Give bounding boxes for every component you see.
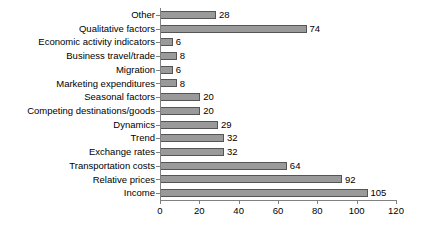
bar: [161, 107, 200, 115]
y-axis-tick: [156, 42, 160, 43]
bar-value-label: 29: [218, 118, 232, 132]
bar: [161, 38, 173, 46]
x-axis-tick-label: 80: [297, 205, 337, 216]
chart-row: Competing destinations/goods20: [160, 104, 396, 118]
y-axis-tick: [156, 166, 160, 167]
chart-row: Migration6: [160, 63, 396, 77]
bar: [161, 66, 173, 74]
category-label: Trend: [2, 131, 155, 145]
x-axis-tick-label: 100: [337, 205, 377, 216]
x-axis-tick: [317, 200, 318, 204]
x-axis-tick: [278, 200, 279, 204]
chart-row: Qualitative factors74: [160, 22, 396, 36]
chart-row: Business travel/trade8: [160, 49, 396, 63]
x-axis-tick-label: 0: [140, 205, 180, 216]
x-axis-tick: [199, 200, 200, 204]
chart-row: Relative prices92: [160, 173, 396, 187]
bar-value-label: 20: [200, 90, 214, 104]
bar: [161, 93, 200, 101]
chart-row: Income105: [160, 186, 396, 200]
category-label: Other: [2, 8, 155, 22]
y-axis-tick: [156, 179, 160, 180]
bar-value-label: 105: [368, 186, 387, 200]
x-axis-tick: [160, 200, 161, 204]
bar-value-label: 6: [173, 35, 181, 49]
y-axis-tick: [156, 97, 160, 98]
y-axis-tick: [156, 138, 160, 139]
y-axis-tick: [156, 193, 160, 194]
x-axis-tick: [396, 200, 397, 204]
category-label: Income: [2, 186, 155, 200]
bar-value-label: 74: [307, 22, 321, 36]
y-axis-tick: [156, 70, 160, 71]
bar: [161, 79, 177, 87]
y-axis-tick: [156, 15, 160, 16]
bar-value-label: 8: [177, 49, 185, 63]
y-axis-tick: [156, 152, 160, 153]
category-label: Competing destinations/goods: [2, 104, 155, 118]
y-axis-tick: [156, 56, 160, 57]
bar-value-label: 20: [200, 104, 214, 118]
y-axis-tick: [156, 125, 160, 126]
chart-row: Dynamics29: [160, 118, 396, 132]
x-axis-tick: [357, 200, 358, 204]
bar-value-label: 64: [287, 159, 301, 173]
category-label: Transportation costs: [2, 159, 155, 173]
bar-value-label: 92: [342, 173, 356, 187]
x-axis-tick-label: 20: [179, 205, 219, 216]
bar: [161, 121, 218, 129]
category-label: Marketing expenditures: [2, 77, 155, 91]
bar: [161, 52, 177, 60]
y-axis-tick: [156, 29, 160, 30]
chart-row: Economic activity indicators6: [160, 35, 396, 49]
category-label: Dynamics: [2, 118, 155, 132]
bar-value-label: 32: [224, 131, 238, 145]
x-axis-tick-label: 40: [219, 205, 259, 216]
chart-row: Trend32: [160, 131, 396, 145]
chart-row: Exchange rates32: [160, 145, 396, 159]
bar-value-label: 32: [224, 145, 238, 159]
bar-value-label: 8: [177, 77, 185, 91]
bar: [161, 25, 307, 33]
x-axis-tick-label: 120: [376, 205, 416, 216]
category-label: Qualitative factors: [2, 22, 155, 36]
bar-chart: Other28Qualitative factors74Economic act…: [0, 0, 423, 230]
chart-row: Marketing expenditures8: [160, 77, 396, 91]
bar: [161, 189, 368, 197]
bar: [161, 148, 224, 156]
x-axis-tick-label: 60: [258, 205, 298, 216]
x-axis-tick: [239, 200, 240, 204]
category-label: Seasonal factors: [2, 90, 155, 104]
y-axis-tick: [156, 111, 160, 112]
category-label: Relative prices: [2, 173, 155, 187]
chart-row: Transportation costs64: [160, 159, 396, 173]
plot-area: Other28Qualitative factors74Economic act…: [160, 8, 396, 200]
chart-row: Other28: [160, 8, 396, 22]
category-label: Economic activity indicators: [2, 35, 155, 49]
bar-value-label: 6: [173, 63, 181, 77]
bar: [161, 162, 287, 170]
bar: [161, 175, 342, 183]
y-axis-tick: [156, 83, 160, 84]
category-label: Exchange rates: [2, 145, 155, 159]
bar-value-label: 28: [216, 8, 230, 22]
bar: [161, 134, 224, 142]
category-label: Migration: [2, 63, 155, 77]
category-label: Business travel/trade: [2, 49, 155, 63]
chart-row: Seasonal factors20: [160, 90, 396, 104]
bar: [161, 11, 216, 19]
